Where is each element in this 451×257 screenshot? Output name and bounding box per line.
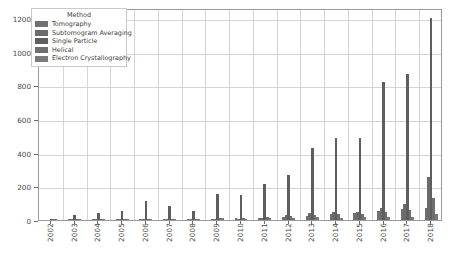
bar-electron-crystallography-2013 (316, 217, 319, 220)
x-axis-tick-label: 2003 (70, 223, 79, 242)
legend-items: TomographySubtomogram AveragingSingle Pa… (35, 20, 123, 63)
x-axis-tick-label: 2002 (46, 223, 55, 242)
gridline-vertical (419, 10, 420, 220)
x-axis-tick-label: 2011 (260, 223, 269, 242)
legend-item-label: Electron Crystallography (52, 54, 131, 63)
y-axis-tick-label: 800 (17, 82, 31, 91)
bar-electron-crystallography-2014 (340, 218, 343, 220)
bar-electron-crystallography-2005 (126, 219, 129, 220)
bar-electron-crystallography-2003 (79, 219, 82, 220)
bar-electron-crystallography-2009 (221, 218, 224, 220)
bar-electron-crystallography-2017 (411, 217, 414, 220)
bar-electron-crystallography-2018 (435, 214, 438, 220)
chart-legend: Method TomographySubtomogram AveragingSi… (31, 8, 127, 67)
bar-single-particle-2018 (430, 18, 433, 220)
y-axis-tick-label: 600 (17, 116, 31, 125)
legend-swatch-icon (35, 21, 48, 27)
x-axis: 2002200320042005200620072008200920102011… (38, 221, 442, 257)
x-axis-tick-label: 2015 (355, 223, 364, 242)
bar-single-particle-2015 (359, 138, 362, 220)
x-axis-tick-label: 2013 (307, 223, 316, 242)
gridline-vertical (395, 10, 396, 220)
legend-item-label: Helical (52, 46, 74, 55)
y-axis-tick-label: 1000 (13, 48, 31, 57)
gridline-horizontal (39, 87, 441, 88)
legend-item-label: Single Particle (52, 37, 97, 46)
x-axis-tick-label: 2010 (236, 223, 245, 242)
y-axis-tick-label: 200 (17, 183, 31, 192)
x-axis-tick-label: 2016 (379, 223, 388, 242)
bar-single-particle-2011 (263, 184, 266, 220)
gridline-vertical (372, 10, 373, 220)
legend-item: Single Particle (35, 37, 123, 46)
legend-swatch-icon (35, 56, 48, 62)
bar-electron-crystallography-2008 (197, 219, 200, 220)
y-axis-tick-label: 1200 (13, 15, 31, 24)
x-axis-tick-label: 2008 (188, 223, 197, 242)
bar-single-particle-2009 (216, 194, 219, 220)
x-axis-tick-label: 2009 (212, 223, 221, 242)
gridline-vertical (277, 10, 278, 220)
bar-single-particle-2013 (311, 148, 314, 220)
gridline-horizontal (39, 121, 441, 122)
legend-item: Subtomogram Averaging (35, 29, 123, 38)
legend-swatch-icon (35, 38, 48, 44)
legend-item-label: Subtomogram Averaging (52, 29, 132, 38)
bar-electron-crystallography-2004 (102, 219, 105, 220)
gridline-vertical (158, 10, 159, 220)
legend-swatch-icon (35, 47, 48, 53)
legend-item: Electron Crystallography (35, 54, 123, 63)
legend-item: Tomography (35, 20, 123, 29)
x-axis-tick-label: 2014 (331, 223, 340, 242)
bar-electron-crystallography-2007 (174, 219, 177, 220)
bar-electron-crystallography-2016 (387, 217, 390, 220)
bar-electron-crystallography-2010 (245, 219, 248, 221)
bar-chart-figure: 020040060080010001200 200220032004200520… (0, 0, 451, 257)
bar-single-particle-2017 (406, 74, 409, 220)
x-axis-tick-label: 2005 (117, 223, 126, 242)
legend-item: Helical (35, 46, 123, 55)
bar-single-particle-2006 (145, 201, 148, 220)
legend-swatch-icon (35, 30, 48, 36)
legend-item-label: Tomography (52, 20, 91, 29)
gridline-vertical (348, 10, 349, 220)
gridline-horizontal (39, 155, 441, 156)
x-axis-tick-label: 2006 (141, 223, 150, 242)
bar-single-particle-2010 (240, 195, 243, 220)
gridline-vertical (182, 10, 183, 220)
gridline-vertical (205, 10, 206, 220)
x-axis-tick-label: 2018 (426, 223, 435, 242)
x-axis-tick-label: 2004 (93, 223, 102, 242)
bar-single-particle-2016 (382, 82, 385, 220)
bar-electron-crystallography-2011 (269, 218, 272, 220)
bar-electron-crystallography-2002 (55, 219, 58, 220)
x-axis-tick-label: 2017 (402, 223, 411, 242)
gridline-vertical (134, 10, 135, 220)
gridline-horizontal (39, 188, 441, 189)
gridline-vertical (300, 10, 301, 220)
legend-title: Method (35, 11, 123, 19)
bar-single-particle-2012 (287, 175, 290, 220)
gridline-vertical (229, 10, 230, 220)
bar-electron-crystallography-2015 (364, 217, 367, 220)
gridline-vertical (253, 10, 254, 220)
bar-electron-crystallography-2012 (292, 218, 295, 220)
gridline-vertical (324, 10, 325, 220)
y-axis-tick-label: 0 (26, 217, 31, 226)
bar-electron-crystallography-2006 (150, 219, 153, 221)
x-axis-tick-label: 2007 (165, 223, 174, 242)
y-axis-tick-label: 400 (17, 149, 31, 158)
x-axis-tick-label: 2012 (284, 223, 293, 242)
bar-single-particle-2014 (335, 138, 338, 220)
